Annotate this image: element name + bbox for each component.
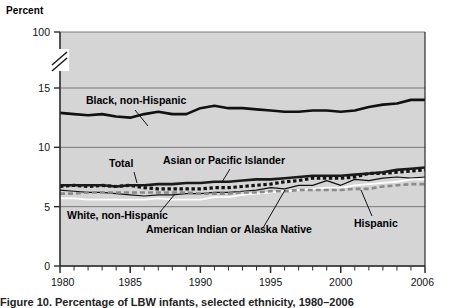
x-tick-label: 1980 bbox=[51, 276, 75, 288]
x-tick-label: 2000 bbox=[329, 276, 353, 288]
series-label: Total bbox=[109, 157, 133, 169]
x-tick-label: 1995 bbox=[259, 276, 283, 288]
y-tick-label: 10 bbox=[38, 141, 50, 153]
series-label: Black, non-Hispanic bbox=[86, 94, 187, 106]
x-tick-label: 1985 bbox=[119, 276, 143, 288]
series-label: White, non-Hispanic bbox=[67, 209, 168, 221]
axis-break-marker bbox=[51, 49, 69, 71]
x-tick-label: 1990 bbox=[189, 276, 213, 288]
figure-caption: Figure 10. Percentage of LBW infants, se… bbox=[0, 296, 468, 308]
y-tick-labels: 051015100 bbox=[32, 26, 50, 272]
y-tick-label: 100 bbox=[32, 26, 50, 38]
line-chart: 051015100 198019851990199520002006 Black… bbox=[0, 0, 468, 308]
x-tick-label: 2006 bbox=[411, 276, 435, 288]
series-label: Hispanic bbox=[354, 217, 398, 229]
y-tick-label: 0 bbox=[44, 260, 50, 272]
y-tick-label: 5 bbox=[44, 201, 50, 213]
series-label: American Indian or Alaska Native bbox=[146, 223, 312, 235]
figure-container: Percent 051015100 1980198519901995200020… bbox=[0, 0, 468, 308]
series-label: Asian or Pacific Islander bbox=[163, 154, 285, 166]
x-tick-labels: 198019851990199520002006 bbox=[51, 276, 434, 288]
y-tick-label: 15 bbox=[38, 82, 50, 94]
